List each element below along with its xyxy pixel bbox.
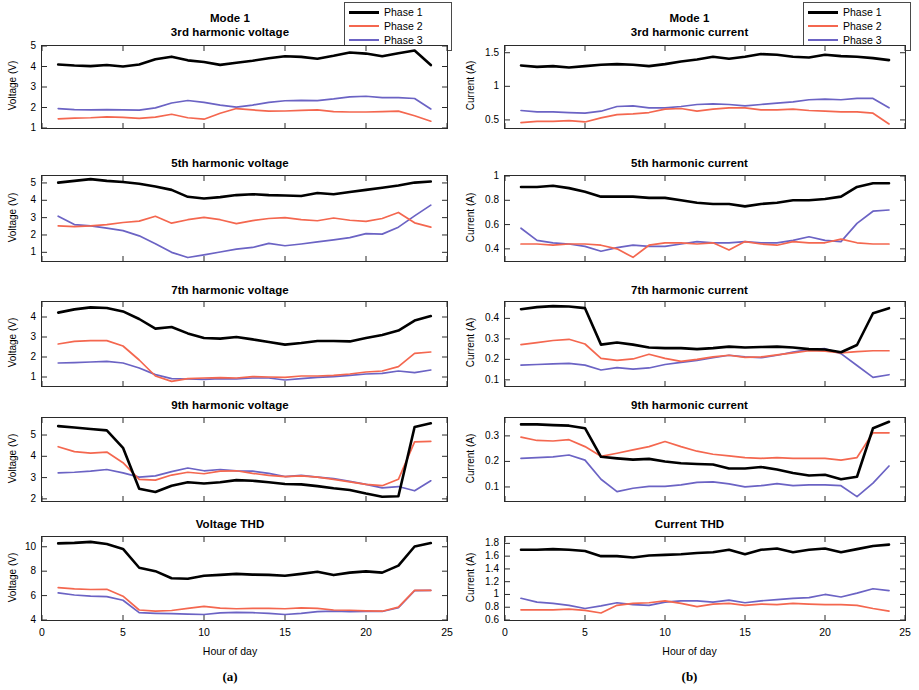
ytick-label-i3-1: 1 — [473, 80, 499, 91]
subplot-title-i5: 5th harmonic current — [460, 157, 919, 169]
figure-root: Mode 1 Hour of day (a) Phase 1Phase 2Pha… — [0, 0, 919, 690]
legend-item-1: Phase 1 — [349, 5, 446, 19]
subplot-title-v9: 9th harmonic voltage — [0, 399, 460, 411]
series-line-i7-phase1 — [521, 306, 889, 352]
plot-canvas-v9 — [42, 418, 447, 501]
series-line-i9-phase3 — [521, 455, 889, 497]
ylabel-v7: Voltage (V) — [7, 287, 18, 399]
series-line-v5-phase2 — [58, 212, 431, 227]
series-line-v7-phase1 — [58, 307, 431, 344]
ylabel-v3: Voltage (V) — [7, 31, 18, 141]
panel-caption-b: (b) — [460, 669, 919, 685]
xtick-label-ithd-5: 25 — [891, 626, 919, 638]
ytick-label-i5-1: 0.6 — [473, 219, 499, 230]
ylabel-v9: Voltage (V) — [7, 403, 18, 514]
series-line-v7-phase2 — [58, 341, 431, 382]
series-line-i9-phase1 — [521, 422, 889, 479]
ytick-label-ithd-6: 1.8 — [473, 537, 499, 548]
ytick-label-i9-1: 0.2 — [473, 455, 499, 466]
ytick-label-i5-3: 1 — [473, 170, 499, 181]
series-line-vthd-phase2 — [58, 588, 431, 612]
xtick-label-ithd-4: 20 — [811, 626, 839, 638]
panel-caption-a: (a) — [0, 669, 460, 685]
subplot-title-i3: 3rd harmonic current — [460, 26, 919, 38]
ytick-label-i7-0: 0.1 — [473, 374, 499, 385]
ylabel-vthd: Voltage (V) — [7, 522, 18, 633]
xtick-label-vthd-2: 10 — [190, 626, 218, 638]
ytick-label-i7-3: 0.4 — [473, 312, 499, 323]
xtick-label-vthd-4: 20 — [352, 626, 380, 638]
series-line-i7-phase3 — [521, 349, 889, 378]
subplot-title-i9: 9th harmonic current — [460, 399, 919, 411]
plot-area-i3 — [504, 45, 906, 129]
plot-canvas-i5 — [505, 176, 905, 261]
ylabel-ithd: Current (A) — [465, 522, 476, 633]
series-line-i5-phase1 — [521, 183, 889, 206]
plot-area-vthd — [41, 536, 448, 621]
plot-area-v7 — [41, 301, 448, 387]
ytick-label-ithd-1: 0.8 — [473, 601, 499, 612]
ytick-label-i7-1: 0.2 — [473, 353, 499, 364]
plot-canvas-vthd — [42, 537, 447, 620]
legend-swatch-1 — [808, 11, 838, 14]
plot-area-v3 — [41, 45, 448, 129]
plot-canvas-i7 — [505, 302, 905, 386]
xaxis-label-a: Hour of day — [0, 645, 460, 657]
plot-area-v9 — [41, 417, 448, 502]
plot-canvas-ithd — [505, 537, 905, 620]
xtick-label-ithd-0: 0 — [491, 626, 519, 638]
xtick-label-ithd-2: 10 — [651, 626, 679, 638]
plot-canvas-v5 — [42, 176, 447, 261]
plot-area-v5 — [41, 175, 448, 262]
subplot-title-i7: 7th harmonic current — [460, 284, 919, 296]
plot-area-i9 — [504, 417, 906, 502]
legend-label-1: Phase 1 — [384, 6, 423, 18]
plot-canvas-i9 — [505, 418, 905, 501]
subplot-title-v5: 5th harmonic voltage — [0, 157, 460, 169]
ytick-label-ithd-4: 1.4 — [473, 563, 499, 574]
legend-swatch-3 — [349, 39, 379, 41]
ylabel-v5: Voltage (V) — [7, 161, 18, 274]
plot-area-i7 — [504, 301, 906, 387]
series-line-ithd-phase1 — [521, 545, 889, 558]
ytick-label-ithd-5: 1.6 — [473, 550, 499, 561]
series-line-v5-phase3 — [58, 205, 431, 257]
xtick-label-vthd-1: 5 — [109, 626, 137, 638]
legend-swatch-1 — [349, 11, 379, 14]
legend-label-1: Phase 1 — [843, 6, 882, 18]
panel-a: Mode 1 Hour of day (a) Phase 1Phase 2Pha… — [0, 0, 460, 690]
panel-b: Mode 1 Hour of day (b) Phase 1Phase 2Pha… — [460, 0, 919, 690]
series-line-i9-phase2 — [521, 433, 889, 460]
series-line-i3-phase2 — [521, 108, 889, 124]
ytick-label-ithd-3: 1.2 — [473, 576, 499, 587]
series-line-v5-phase1 — [58, 179, 431, 198]
subplot-title-v3: 3rd harmonic voltage — [0, 26, 460, 38]
plot-canvas-i3 — [505, 46, 905, 128]
xtick-label-vthd-0: 0 — [28, 626, 56, 638]
ytick-label-i9-2: 0.3 — [473, 430, 499, 441]
ylabel-i3: Current (A) — [465, 31, 476, 141]
xtick-label-ithd-1: 5 — [571, 626, 599, 638]
xtick-label-ithd-3: 15 — [731, 626, 759, 638]
plot-canvas-v7 — [42, 302, 447, 386]
plot-canvas-v3 — [42, 46, 447, 128]
plot-area-i5 — [504, 175, 906, 262]
series-line-v9-phase2 — [58, 441, 431, 485]
xtick-label-vthd-5: 25 — [433, 626, 461, 638]
ytick-label-i5-2: 0.8 — [473, 194, 499, 205]
series-line-v3-phase1 — [58, 51, 431, 67]
xaxis-label-b: Hour of day — [460, 645, 919, 657]
subplot-title-vthd: Voltage THD — [0, 518, 460, 530]
xtick-label-vthd-3: 15 — [271, 626, 299, 638]
series-line-vthd-phase1 — [58, 542, 431, 579]
ytick-label-i7-2: 0.3 — [473, 333, 499, 344]
series-line-i3-phase1 — [521, 54, 889, 67]
ytick-label-i9-0: 0.1 — [473, 481, 499, 492]
ytick-label-i5-0: 0.4 — [473, 243, 499, 254]
series-line-i5-phase3 — [521, 210, 889, 251]
legend-item-1: Phase 1 — [808, 5, 905, 19]
ylabel-i7: Current (A) — [465, 287, 476, 399]
ylabel-i5: Current (A) — [465, 161, 476, 274]
ylabel-i9: Current (A) — [465, 403, 476, 514]
ytick-label-i3-0: 0.5 — [473, 114, 499, 125]
